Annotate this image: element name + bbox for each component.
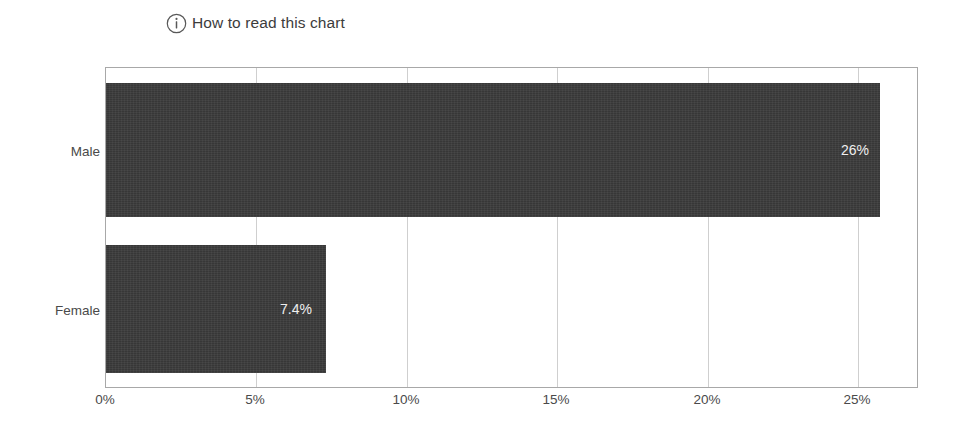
xtick-label-20: 20% <box>693 392 720 407</box>
xtick-label-15: 15% <box>542 392 569 407</box>
horizontal-bar-chart: Male Female 26% 7.4% 0% 5% 10% 15% 20% 2… <box>0 0 964 430</box>
bar-male[interactable] <box>106 83 880 217</box>
xtick-label-25: 25% <box>843 392 870 407</box>
bar-row-male: 26% <box>106 83 917 217</box>
xtick-label-0: 0% <box>95 392 115 407</box>
plot-area: 26% 7.4% <box>105 67 918 388</box>
xtick-label-5: 5% <box>245 392 265 407</box>
category-label-female: Female <box>4 303 100 318</box>
bar-value-label-female: 7.4% <box>280 302 312 316</box>
category-axis: Male Female <box>0 0 100 430</box>
bar-row-female: 7.4% <box>106 245 917 373</box>
xtick-label-10: 10% <box>392 392 419 407</box>
value-axis: 0% 5% 10% 15% 20% 25% <box>0 392 964 416</box>
bar-value-label-male: 26% <box>841 143 869 157</box>
category-label-male: Male <box>4 144 100 159</box>
